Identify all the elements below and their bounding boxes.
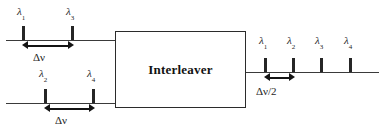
spacing-text: Δν: [33, 51, 45, 63]
interleaver-box: Interleaver: [115, 31, 246, 108]
output-spacing-label: Δν/2: [256, 86, 277, 97]
lambda-subscript: 3: [320, 43, 324, 51]
upper-input-spacing-label: Δν: [33, 52, 45, 63]
output-label-lambda1: λ1: [259, 35, 267, 46]
lambda-subscript: 4: [92, 76, 96, 84]
output-spike-lambda3: [320, 58, 323, 72]
output-spike-lambda2: [292, 58, 295, 72]
lambda-subscript: 4: [349, 43, 353, 51]
output-label-lambda2: λ2: [287, 35, 295, 46]
upper-input-label-lambda3: λ3: [66, 6, 74, 17]
output-label-lambda3: λ3: [315, 35, 323, 46]
lambda-subscript: 2: [44, 76, 48, 84]
upper-input-label-lambda1: λ1: [17, 6, 25, 17]
interleaver-label: Interleaver: [148, 62, 212, 78]
arrow-head-right-icon: [89, 104, 95, 112]
arrow-shaft: [269, 77, 290, 79]
lambda-subscript: 1: [22, 14, 26, 22]
arrow-head-right-icon: [68, 41, 74, 49]
upper-input-spike-lambda3: [71, 26, 74, 40]
output-spike-lambda1: [264, 58, 267, 72]
lower-input-label-lambda4: λ4: [87, 68, 95, 79]
arrow-head-right-icon: [289, 73, 295, 81]
spacing-text: Δν/2: [256, 85, 277, 97]
output-spike-lambda4: [349, 58, 352, 72]
interleaver-diagram: λ1 λ3 Δν λ2 λ4 Δν Interleaver λ1 λ2: [0, 0, 385, 132]
lambda-subscript: 1: [264, 43, 268, 51]
output-label-lambda4: λ4: [344, 35, 352, 46]
lower-input-spacing-arrow: [44, 104, 95, 113]
lower-input-spike-lambda2: [44, 89, 47, 103]
lambda-subscript: 3: [71, 14, 75, 22]
spacing-text: Δν: [55, 114, 67, 126]
arrow-shaft: [27, 45, 69, 47]
lambda-subscript: 2: [292, 43, 296, 51]
lower-input-spike-lambda4: [92, 89, 95, 103]
output-spacing-arrow: [264, 73, 295, 82]
lower-input-spacing-label: Δν: [55, 115, 67, 126]
lower-input-label-lambda2: λ2: [39, 68, 47, 79]
arrow-shaft: [49, 108, 90, 110]
upper-input-spacing-arrow: [22, 41, 74, 50]
upper-input-spike-lambda1: [22, 26, 25, 40]
